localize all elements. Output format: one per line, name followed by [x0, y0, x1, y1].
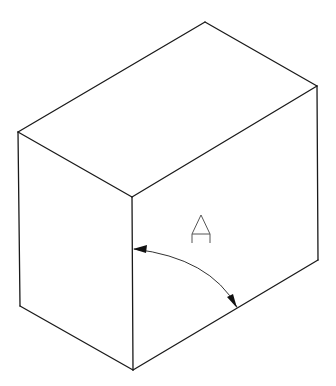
- edge-front-top-right: [132, 86, 317, 197]
- angle-label-a: [192, 215, 210, 243]
- edge-right-vertical: [317, 86, 318, 260]
- angle-arc: [134, 249, 237, 307]
- edge-left-vertical: [18, 132, 20, 306]
- arrowhead-right-icon: [227, 294, 237, 308]
- angle-annotation: A: [133, 215, 237, 308]
- arrowhead-left-icon: [133, 245, 147, 253]
- edge-front-vertical: [132, 197, 133, 370]
- edge-bottom-right: [133, 260, 318, 370]
- edge-front-top-left: [18, 132, 132, 197]
- isometric-box-diagram: A: [0, 0, 336, 386]
- box-edges: [18, 22, 318, 370]
- edge-top-right: [205, 22, 317, 86]
- edge-bottom-left: [20, 306, 133, 370]
- edge-top-left: [18, 22, 205, 132]
